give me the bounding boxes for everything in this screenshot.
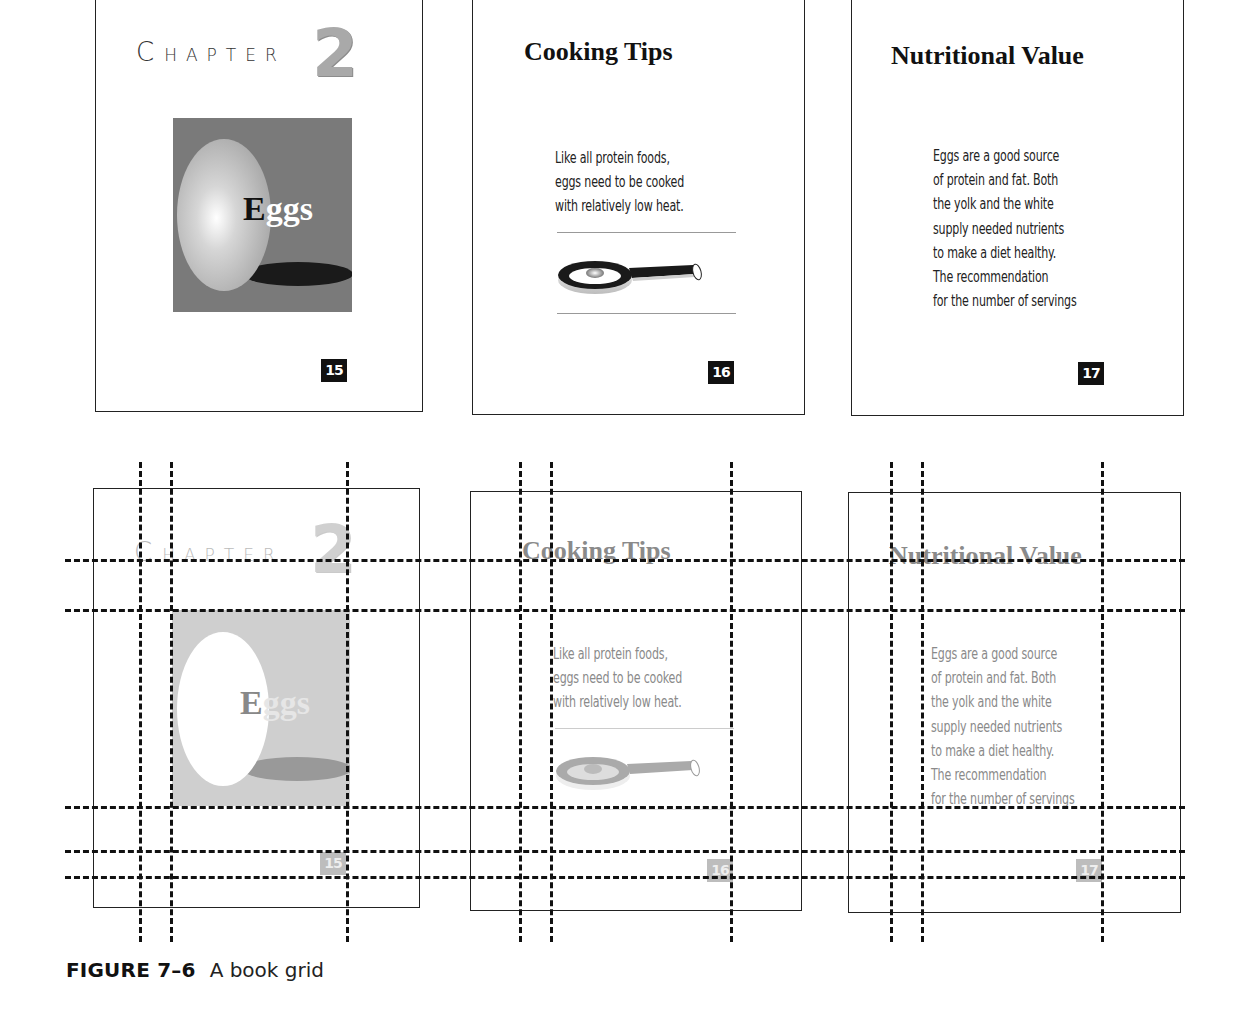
grid-guide-horizontal — [65, 850, 1185, 853]
frying-pan-icon — [557, 252, 717, 302]
page-16: Cooking Tips Like all protein foods, egg… — [472, 0, 805, 415]
egg-illustration-ghost: Eggs — [172, 610, 350, 806]
page-title-cooking-tips: Cooking Tips — [524, 37, 673, 67]
body-text-ghost: Like all protein foods, eggs need to be … — [553, 642, 682, 715]
body-text: Like all protein foods, eggs need to be … — [555, 146, 684, 219]
folio-17: 17 — [1078, 362, 1104, 385]
grid-guide-vertical — [1101, 462, 1104, 942]
chapter-number: 2 — [312, 21, 358, 87]
folio-15: 15 — [321, 359, 347, 382]
page-title-nutritional-value: Nutritional Value — [891, 41, 1084, 71]
page-15: CHAPTER 2 Eggs 15 — [95, 0, 423, 412]
grid-guide-vertical — [730, 462, 733, 942]
rule-bottom — [557, 313, 736, 314]
rule-top — [557, 232, 736, 233]
page-title-ghost: Nutritional Value — [889, 541, 1082, 571]
figure-caption-text: A book grid — [210, 958, 324, 982]
folio-15-ghost: 15 — [320, 852, 346, 875]
body-text: Eggs are a good source of protein and fa… — [933, 144, 1077, 313]
grid-guide-horizontal — [65, 876, 1185, 879]
eggs-title-ghost: Eggs — [240, 684, 310, 722]
chapter-label: CHAPTER — [136, 37, 286, 67]
rule-bottom-ghost — [555, 809, 734, 810]
egg-illustration: Eggs — [173, 118, 352, 312]
grid-guide-vertical — [921, 462, 924, 942]
grid-guide-horizontal — [65, 806, 1185, 809]
grid-guide-vertical — [346, 462, 349, 942]
grid-guide-horizontal — [65, 609, 1185, 612]
chapter-label-ghost: CHAPTER — [134, 537, 284, 567]
grid-page-15: CHAPTER 2 Eggs 15 — [93, 488, 420, 908]
frying-pan-icon — [555, 748, 715, 798]
grid-guide-vertical — [550, 462, 553, 942]
eggs-title: Eggs — [243, 190, 313, 228]
grid-guide-vertical — [519, 462, 522, 942]
grid-guide-vertical — [170, 462, 173, 942]
chapter-number-ghost: 2 — [310, 517, 356, 583]
figure-label: FIGURE 7–6 — [66, 958, 196, 982]
grid-guide-horizontal — [65, 559, 1185, 562]
rule-top-ghost — [555, 728, 734, 729]
grid-guide-vertical — [890, 462, 893, 942]
figure-caption: FIGURE 7–6A book grid — [66, 958, 324, 982]
body-text-ghost: Eggs are a good source of protein and fa… — [931, 642, 1075, 811]
grid-guide-vertical — [139, 462, 142, 942]
page-17: Nutritional Value Eggs are a good source… — [851, 0, 1184, 416]
folio-16: 16 — [708, 361, 734, 384]
